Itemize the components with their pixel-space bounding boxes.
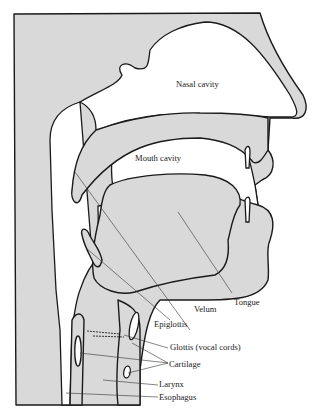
label-tongue: Tongue [234,297,260,307]
label-esophagus: Esophagus [159,392,197,402]
lower-tooth [245,197,250,222]
label-glottis: Glottis (vocal cords) [170,342,241,352]
label-epiglottis: Epiglottis [154,319,188,329]
label-nasal-cavity: Nasal cavity [176,79,219,89]
vocal-tract-diagram: Nasal cavity Mouth cavity Velum Tongue E… [0,0,316,417]
label-cartilage: Cartilage [169,359,201,369]
label-velum: Velum [194,304,217,314]
cartilage-back [75,336,81,366]
upper-tooth [245,146,250,168]
label-mouth-cavity: Mouth cavity [135,153,182,163]
label-larynx: Larynx [159,379,185,389]
